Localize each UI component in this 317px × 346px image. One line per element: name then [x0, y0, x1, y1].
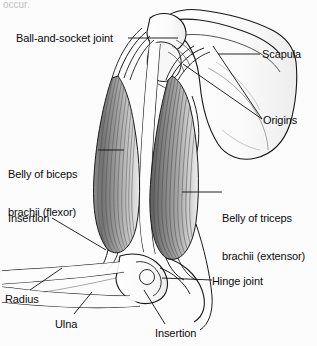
biceps-brachii-muscle [94, 74, 140, 270]
label-belly-of-triceps: Belly of triceps brachii (extensor) [222, 187, 305, 287]
anatomy-figure: occur. Ball-and-socket joint Scapula Ori… [0, 0, 317, 346]
label-belly-of-triceps-line2: brachii (extensor) [222, 250, 305, 263]
olecranon-contour [166, 258, 204, 322]
label-ball-and-socket-joint: Ball-and-socket joint [16, 32, 113, 45]
label-insertion-upper: Insertion [8, 212, 49, 225]
label-insertion-lower: Insertion [155, 327, 196, 340]
page-text-fragment: occur. [3, 0, 30, 10]
label-belly-of-biceps-line1: Belly of biceps [8, 168, 77, 181]
label-radius: Radius [5, 293, 39, 306]
label-scapula: Scapula [262, 48, 301, 61]
label-hinge-joint: Hinge joint [212, 275, 263, 288]
leader-hinge-joint [162, 278, 212, 280]
label-origins: Origins [263, 114, 297, 127]
radius-bone [2, 262, 124, 284]
label-ulna: Ulna [55, 318, 77, 331]
label-belly-of-biceps: Belly of biceps brachii (flexor) [8, 143, 77, 243]
label-belly-of-triceps-line1: Belly of triceps [222, 212, 305, 225]
arm-posterior-contour [196, 224, 212, 330]
